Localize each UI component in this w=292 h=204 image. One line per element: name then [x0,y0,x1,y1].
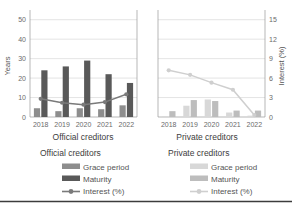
left-tick-label: 30 [18,55,26,62]
right-tick-label: 15 [269,16,277,23]
x-tick-label: 2022 [247,121,263,128]
line-marker-interest [252,113,256,117]
right-axis-ticks: 03691215 [269,16,277,120]
bar-grace-period [205,99,211,117]
x-tick-label: 2019 [54,121,70,128]
bar-maturity [41,70,47,117]
line-marker-interest [124,92,128,96]
x-tick-label: 2021 [97,121,113,128]
legend-item-label: Interest (%) [211,187,253,196]
right-tick-label: 9 [269,55,273,62]
bar-grace-period [120,105,126,117]
bar-maturity [191,100,197,117]
dual-panel-bar-line-chart: 01020304050 03691215 Years Interest (%) … [0,0,292,204]
panel-title-official: Official creditors [53,132,114,142]
panel-title-private: Private creditors [176,132,237,142]
legend-swatch-icon [190,176,208,182]
bar-grace-period [98,109,104,117]
x-tick-label: 2021 [225,121,241,128]
x-tick-label: 2020 [76,121,92,128]
legend-heading: Official creditors [40,148,101,158]
left-tick-label: 40 [18,36,26,43]
legend-item-label: Grace period [211,163,257,172]
line-marker-interest [39,97,43,101]
bar-maturity [84,61,90,117]
left-tick-label: 20 [18,75,26,82]
legend-line-marker-icon [197,189,202,194]
bar-maturity [106,74,112,117]
left-axis-ticks: 01020304050 [18,16,26,120]
left-axis-title: Years [3,56,12,75]
legend-swatch-icon [190,164,208,170]
x-tick-label: 2022 [119,121,135,128]
legend-heading: Private creditors [168,148,229,158]
legend-item-label: Interest (%) [83,187,125,196]
interest-lines-layer [39,68,257,117]
line-marker-interest [188,73,192,77]
line-marker-interest [103,100,107,104]
line-interest [169,70,255,115]
right-tick-label: 0 [269,114,273,121]
line-marker-interest [60,101,64,105]
x-tick-label: 2018 [33,121,49,128]
line-marker-interest [81,103,85,107]
bar-grace-period [34,108,40,117]
right-tick-label: 12 [269,36,277,43]
bar-maturity [63,66,69,117]
bar-grace-period [183,106,189,117]
left-tick-label: 10 [18,94,26,101]
x-tick-label: 2020 [204,121,220,128]
right-axis-title: Interest (%) [277,46,286,85]
legend-item-label: Maturity [211,175,239,184]
right-tick-label: 6 [269,75,273,82]
left-tick-label: 50 [18,16,26,23]
bar-grace-period [77,108,83,117]
legend-item-label: Grace period [83,163,129,172]
legend-swatch-icon [62,176,80,182]
legend-item-label: Maturity [83,175,111,184]
right-tick-label: 3 [269,94,273,101]
bars-layer [34,61,261,117]
x-tick-label: 2018 [161,121,177,128]
bar-grace-period [226,113,232,117]
bar-grace-period [162,116,168,117]
legend-private: Private creditorsGrace periodMaturityInt… [168,148,257,196]
chart-figure: 01020304050 03691215 Years Interest (%) … [0,0,292,204]
x-tick-label: 2019 [182,121,198,128]
legend-line-marker-icon [69,189,74,194]
legend-official: Official creditorsGrace periodMaturityIn… [40,148,129,196]
bar-grace-period [55,111,61,117]
line-marker-interest [231,88,235,92]
line-marker-interest [209,81,213,85]
x-axis-ticks: 2018201920202021202220182019202020212022 [33,121,262,128]
bar-maturity [212,101,218,117]
bar-maturity [127,83,133,117]
bar-maturity [169,111,175,117]
bar-maturity [234,111,240,117]
legend-swatch-icon [62,164,80,170]
line-marker-interest [167,68,171,72]
left-tick-label: 0 [22,114,26,121]
